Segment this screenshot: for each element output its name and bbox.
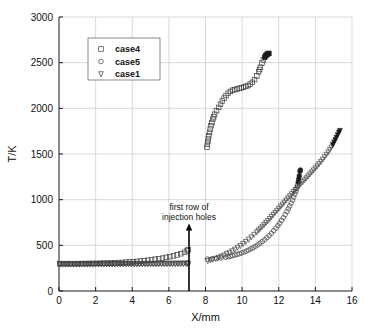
legend-label-case1: case1 [115, 69, 140, 79]
legend-label-case5: case5 [115, 57, 140, 67]
data-point-case5 [298, 168, 303, 173]
data-point-case5 [290, 198, 295, 203]
data-point-case4 [218, 102, 223, 107]
data-point-case4 [220, 99, 225, 104]
y-axis-tick-label: 1000 [31, 194, 54, 205]
data-point-case5 [289, 201, 294, 206]
x-axis-tick-label: 14 [310, 295, 322, 306]
temperature-profile-chart: 0246810121416050010001500200025003000X/m… [0, 0, 371, 330]
x-axis-tick-label: 2 [93, 295, 99, 306]
x-axis-tick-label: 8 [203, 295, 209, 306]
x-axis-tick-label: 6 [166, 295, 172, 306]
x-axis-tick-label: 12 [273, 295, 285, 306]
x-axis-tick-label: 4 [129, 295, 135, 306]
legend-label-case4: case4 [115, 44, 140, 54]
data-point-case5 [286, 207, 291, 212]
x-axis-tick-label: 16 [346, 295, 358, 306]
y-axis-tick-label: 1500 [31, 149, 54, 160]
y-axis-tick-label: 500 [36, 240, 53, 251]
annotation-text-line1: first row of [169, 202, 209, 212]
y-axis-tick-label: 2000 [31, 103, 54, 114]
data-point-case5 [287, 204, 292, 209]
x-axis-label: X/mm [191, 311, 220, 323]
x-axis-tick-label: 0 [56, 295, 62, 306]
chart-figure: 0246810121416050010001500200025003000X/m… [0, 0, 371, 330]
y-axis-tick-label: 3000 [31, 12, 54, 23]
x-axis-tick-label: 10 [237, 295, 249, 306]
data-point-case4 [267, 51, 272, 56]
annotation-text-line2: injection holes [162, 212, 216, 222]
y-axis-tick-label: 0 [47, 286, 53, 297]
y-axis-tick-label: 2500 [31, 57, 54, 68]
y-axis-label: T/K [6, 145, 18, 163]
annotation-arrow-head [186, 223, 192, 230]
data-point-case5 [297, 174, 302, 179]
